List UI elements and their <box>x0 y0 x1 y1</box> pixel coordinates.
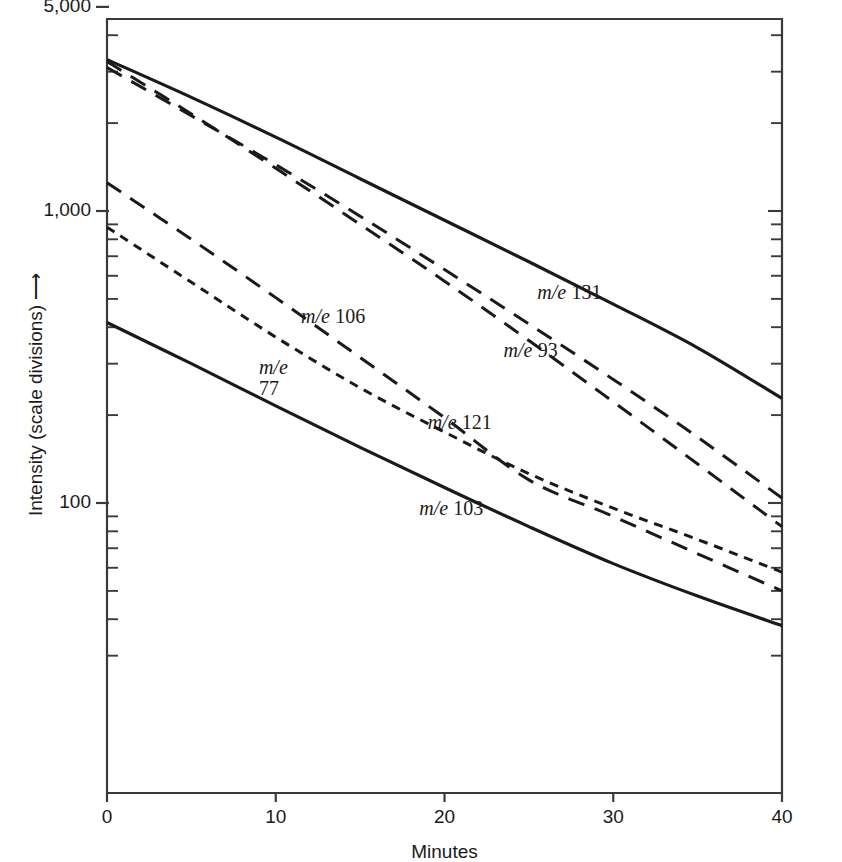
y-tick-label-100: 100 <box>59 491 91 513</box>
series-label-me-131: m/e 131 <box>537 281 601 304</box>
x-tick-label-20: 20 <box>434 806 455 828</box>
series-label-me-prefix: m/e <box>419 497 448 519</box>
series-label-mass-103: 103 <box>453 497 483 519</box>
series-label-me-77: m/e 77 <box>259 357 288 399</box>
series-line-77 <box>107 227 782 572</box>
x-tick-label-40: 40 <box>771 806 792 828</box>
series-label-mass-121: 121 <box>462 411 492 433</box>
series-label-me-prefix: m/e <box>537 281 566 303</box>
series-group <box>107 60 782 626</box>
x-axis-title: Minutes <box>411 841 478 862</box>
y-tick-label-5000: 5,000 <box>43 0 91 17</box>
series-label-mass-93: 93 <box>538 339 558 361</box>
series-label-me-prefix: m/e <box>259 356 288 378</box>
x-tick-label-10: 10 <box>265 806 286 828</box>
series-line-103 <box>107 323 782 626</box>
y-axis-arrow-icon: ⟶ <box>25 273 46 300</box>
series-label-me-prefix: m/e <box>504 339 533 361</box>
y-axis-title-text: Intensity (scale divisions) <box>25 305 46 516</box>
series-label-me-106: m/e 106 <box>301 305 365 328</box>
axes-group <box>96 7 782 802</box>
series-label-mass-131: 131 <box>571 281 601 303</box>
series-label-me-93: m/e 93 <box>504 339 558 362</box>
series-label-me-prefix: m/e <box>301 305 330 327</box>
series-label-me-prefix: m/e <box>428 411 457 433</box>
series-label-me-103: m/e 103 <box>419 497 483 520</box>
y-axis-title: Intensity (scale divisions) ⟶ <box>24 273 47 516</box>
series-line-131 <box>107 60 782 399</box>
series-label-mass-106: 106 <box>335 305 365 327</box>
series-line-121 <box>107 62 782 527</box>
series-label-mass-77: 77 <box>259 377 279 399</box>
series-line-106 <box>107 183 782 591</box>
x-tick-label-30: 30 <box>603 806 624 828</box>
y-tick-label-1000: 1,000 <box>43 199 91 221</box>
series-label-me-121: m/e 121 <box>428 411 492 434</box>
x-tick-label-0: 0 <box>102 806 113 828</box>
